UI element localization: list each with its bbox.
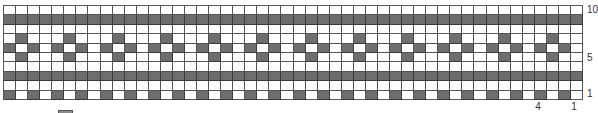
stitch-cell-background xyxy=(161,91,173,100)
stitch-cell-background xyxy=(378,25,390,34)
stitch-cell-contrast xyxy=(547,15,559,24)
stitch-cell-background xyxy=(366,25,378,34)
stitch-cell-contrast xyxy=(390,72,402,81)
stitch-cell-contrast xyxy=(366,72,378,81)
stitch-cell-background xyxy=(40,25,52,34)
stitch-cell-background xyxy=(233,91,245,100)
stitch-cell-background xyxy=(306,81,318,90)
stitch-cell-background xyxy=(137,81,149,90)
stitch-cell-background xyxy=(221,25,233,34)
stitch-cell-background xyxy=(40,53,52,62)
stitch-cell-contrast xyxy=(342,15,354,24)
stitch-cell-background xyxy=(378,34,390,43)
stitch-cell-background xyxy=(499,6,511,15)
stitch-cell-contrast xyxy=(426,15,438,24)
stitch-cell-background xyxy=(535,6,547,15)
stitch-cell-contrast xyxy=(342,91,354,100)
stitch-cell-contrast xyxy=(4,15,16,24)
stitch-cell-background xyxy=(173,6,185,15)
stitch-cell-background xyxy=(281,53,293,62)
stitch-cell-background xyxy=(245,53,257,62)
stitch-cell-background xyxy=(354,25,366,34)
stitch-cell-contrast xyxy=(378,72,390,81)
stitch-cell-background xyxy=(559,25,571,34)
stitch-cell-background xyxy=(28,6,40,15)
stitch-cell-background xyxy=(64,6,76,15)
stitch-cell-background xyxy=(113,25,125,34)
stitch-cell-background xyxy=(390,34,402,43)
stitch-cell-background xyxy=(487,25,499,34)
stitch-cell-contrast xyxy=(209,53,221,62)
stitch-cell-contrast xyxy=(245,72,257,81)
stitch-cell-background xyxy=(426,34,438,43)
stitch-cell-contrast xyxy=(197,72,209,81)
stitch-cell-contrast xyxy=(378,15,390,24)
stitch-cell-contrast xyxy=(487,44,499,53)
stitch-cell-background xyxy=(499,91,511,100)
stitch-cell-contrast xyxy=(366,15,378,24)
stitch-cell-background xyxy=(474,25,486,34)
stitch-cell-background xyxy=(571,53,583,62)
stitch-cell-background xyxy=(547,6,559,15)
stitch-cell-background xyxy=(233,34,245,43)
stitch-cell-contrast xyxy=(354,34,366,43)
stitch-cell-background xyxy=(487,6,499,15)
stitch-cell-contrast xyxy=(52,44,64,53)
stitch-cell-background xyxy=(173,81,185,90)
stitch-cell-background xyxy=(547,81,559,90)
stitch-cell-background xyxy=(571,25,583,34)
stitch-cell-background xyxy=(462,6,474,15)
stitch-cell-contrast xyxy=(487,72,499,81)
stitch-cell-background xyxy=(450,91,462,100)
stitch-cell-background xyxy=(209,6,221,15)
stitch-cell-background xyxy=(511,6,523,15)
stitch-cell-contrast xyxy=(426,72,438,81)
stitch-cell-background xyxy=(535,34,547,43)
stitch-cell-background xyxy=(318,53,330,62)
stitch-cell-background xyxy=(149,62,161,71)
stitch-cell-background xyxy=(185,25,197,34)
stitch-cell-background xyxy=(571,34,583,43)
stitch-cell-contrast xyxy=(511,44,523,53)
stitch-cell-background xyxy=(40,81,52,90)
stitch-cell-background xyxy=(233,25,245,34)
stitch-cell-background xyxy=(535,81,547,90)
stitch-cell-background xyxy=(101,6,113,15)
stitch-cell-background xyxy=(354,62,366,71)
stitch-cell-contrast xyxy=(64,34,76,43)
stitch-cell-background xyxy=(64,62,76,71)
stitch-cell-background xyxy=(16,62,28,71)
stitch-cell-contrast xyxy=(438,72,450,81)
stitch-cell-background xyxy=(64,81,76,90)
stitch-cell-background xyxy=(101,62,113,71)
stitch-cell-contrast xyxy=(318,91,330,100)
stitch-cell-background xyxy=(40,34,52,43)
stitch-cell-contrast xyxy=(438,44,450,53)
stitch-cell-contrast xyxy=(402,34,414,43)
stitch-cell-background xyxy=(76,25,88,34)
stitch-cell-contrast xyxy=(101,15,113,24)
stitch-cell-contrast xyxy=(342,72,354,81)
stitch-cell-contrast xyxy=(318,44,330,53)
stitch-cell-background xyxy=(113,91,125,100)
stitch-cell-background xyxy=(40,44,52,53)
stitch-cell-background xyxy=(281,25,293,34)
stitch-cell-background xyxy=(499,44,511,53)
stitch-cell-contrast xyxy=(52,91,64,100)
stitch-cell-contrast xyxy=(76,15,88,24)
stitch-cell-background xyxy=(28,34,40,43)
stitch-cell-background xyxy=(330,6,342,15)
stitch-cell-background xyxy=(414,25,426,34)
stitch-cell-background xyxy=(450,6,462,15)
stitch-cell-background xyxy=(88,44,100,53)
stitch-cell-contrast xyxy=(450,53,462,62)
stitch-cell-contrast xyxy=(474,15,486,24)
stitch-cell-background xyxy=(257,6,269,15)
stitch-cell-background xyxy=(366,81,378,90)
stitch-cell-background xyxy=(523,91,535,100)
stitch-cell-background xyxy=(342,6,354,15)
stitch-cell-contrast xyxy=(535,91,547,100)
stitch-cell-contrast xyxy=(535,15,547,24)
stitch-cell-contrast xyxy=(76,91,88,100)
stitch-cell-contrast xyxy=(125,72,137,81)
